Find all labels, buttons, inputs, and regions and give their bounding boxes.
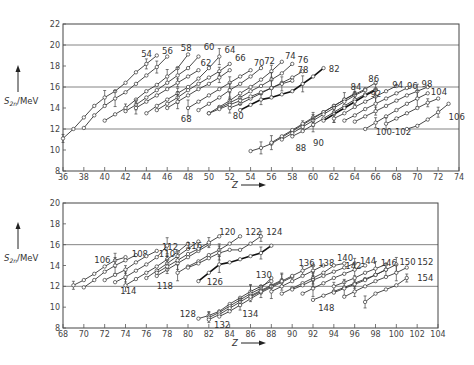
data-point: [207, 82, 210, 85]
chain-label: 148: [318, 303, 334, 313]
x-tick-label: 42: [120, 173, 130, 182]
data-point: [374, 273, 377, 276]
data-point: [218, 55, 221, 58]
data-point: [301, 269, 304, 272]
data-point: [249, 242, 252, 245]
data-point: [124, 268, 127, 271]
data-point: [332, 117, 335, 120]
data-point: [228, 310, 231, 313]
data-point: [113, 97, 116, 100]
x-tick-label: 36: [58, 173, 68, 182]
data-point: [426, 92, 429, 95]
y-tick-label: 12: [50, 282, 60, 291]
x-tick-label: 88: [266, 330, 276, 339]
data-point: [145, 90, 148, 93]
chain-label: 112: [162, 242, 178, 252]
data-point: [353, 283, 356, 286]
chain-label: 118: [157, 281, 173, 291]
y-tick-label: 18: [50, 220, 60, 229]
chain-label: 106: [94, 255, 110, 265]
data-point: [218, 251, 221, 254]
data-point: [405, 112, 408, 115]
data-point: [197, 82, 200, 85]
data-point: [301, 125, 304, 128]
isotone-chain-N54: 54: [61, 49, 158, 142]
x-tick-label: 80: [183, 330, 193, 339]
s2n-chart: 8101214161820223638404244464850525456586…: [0, 0, 474, 365]
chain-label: 144: [360, 256, 376, 266]
x-tick-label: 100: [389, 330, 404, 339]
data-point: [207, 257, 210, 260]
chain-line: [324, 90, 376, 120]
isotone-chain-N106: 106: [72, 253, 127, 289]
data-point: [176, 74, 179, 77]
data-point: [82, 278, 85, 281]
data-point: [374, 109, 377, 112]
data-point: [197, 247, 200, 250]
data-point: [197, 279, 200, 282]
chain-label: 132: [214, 320, 230, 330]
data-point: [228, 103, 231, 106]
data-point: [228, 69, 231, 72]
chain-label: 82: [329, 64, 340, 74]
arrow-up-icon: [16, 65, 21, 72]
data-point: [155, 65, 158, 68]
data-point: [82, 286, 85, 289]
data-point: [290, 288, 293, 291]
data-point: [270, 96, 273, 99]
data-point: [280, 60, 283, 63]
data-point: [134, 261, 137, 264]
data-point: [176, 259, 179, 262]
data-point: [145, 96, 148, 99]
y-axis-label: S2n/MeV: [4, 253, 38, 264]
data-point: [166, 81, 169, 84]
data-point: [166, 75, 169, 78]
data-point: [238, 235, 241, 238]
data-point: [395, 92, 398, 95]
data-point: [186, 266, 189, 269]
isotone-chain-N154: 154: [363, 273, 433, 308]
data-point: [93, 278, 96, 281]
data-point: [145, 276, 148, 279]
y-tick-label: 16: [50, 241, 60, 250]
data-point: [218, 315, 221, 318]
data-point: [332, 276, 335, 279]
data-point: [301, 284, 304, 287]
data-point: [113, 113, 116, 116]
data-point: [228, 261, 231, 264]
y-tick-label: 10: [50, 146, 60, 155]
data-point: [332, 291, 335, 294]
data-point: [395, 108, 398, 111]
data-point: [218, 76, 221, 79]
x-tick-label: 102: [410, 330, 425, 339]
y-tick-label: 22: [50, 20, 60, 29]
data-point: [436, 111, 439, 114]
data-point: [249, 85, 252, 88]
data-point: [145, 263, 148, 266]
y-axis-label: S2n/MeV: [4, 96, 38, 107]
data-point: [228, 62, 231, 65]
data-point: [197, 77, 200, 80]
bottom-panel-plot: 8101214161820687072747678808284868890929…: [4, 199, 446, 348]
data-point: [249, 95, 252, 98]
data-point: [197, 108, 200, 111]
data-point: [124, 109, 127, 112]
data-point: [384, 288, 387, 291]
data-point: [145, 112, 148, 115]
data-point: [103, 119, 106, 122]
data-point: [374, 121, 377, 124]
data-point: [343, 119, 346, 122]
x-tick-label: 58: [287, 173, 297, 182]
x-tick-label: 46: [162, 173, 172, 182]
data-point: [197, 317, 200, 320]
data-point: [124, 259, 127, 262]
data-point: [134, 71, 137, 74]
data-point: [259, 98, 262, 101]
data-point: [103, 265, 106, 268]
data-point: [343, 287, 346, 290]
chain-line: [63, 56, 157, 139]
data-point: [290, 274, 293, 277]
data-point: [395, 117, 398, 120]
data-point: [155, 83, 158, 86]
x-tick-label: 78: [162, 330, 172, 339]
